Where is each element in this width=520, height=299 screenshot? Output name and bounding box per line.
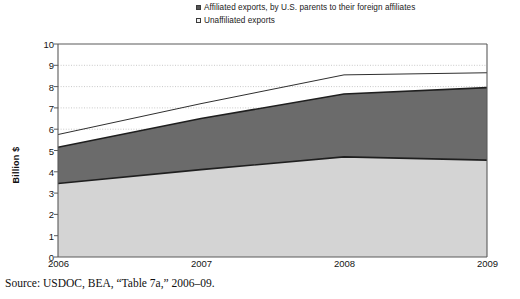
- chart-canvas: [0, 34, 520, 266]
- x-tick-2009: 2009: [477, 258, 498, 269]
- legend-item-unaffiliated: Unaffiliated exports: [196, 14, 516, 27]
- legend-item-affiliated: Affiliated exports, by U.S. parents to t…: [196, 1, 516, 14]
- y-tick-marks: [54, 44, 58, 257]
- legend-label-unaffiliated: Unaffiliated exports: [204, 14, 275, 27]
- x-tick-2008: 2008: [334, 258, 355, 269]
- figure-stacked-area-exports: Affiliated exports, by U.S. parents to t…: [0, 0, 520, 299]
- legend-swatch-unaffiliated-icon: [196, 18, 201, 23]
- chart-legend: Affiliated exports, by U.S. parents to t…: [196, 1, 516, 27]
- plot-area: Billion $ 10 9 8 7 6 5 4 3 2 1 0: [0, 34, 520, 266]
- source-caption: Source: USDOC, BEA, “Table 7a,” 2006–09.: [5, 277, 215, 289]
- x-tick-2006: 2006: [48, 258, 69, 269]
- legend-label-affiliated: Affiliated exports, by U.S. parents to t…: [204, 1, 415, 14]
- legend-swatch-affiliated-icon: [196, 5, 201, 10]
- x-tick-2007: 2007: [191, 258, 212, 269]
